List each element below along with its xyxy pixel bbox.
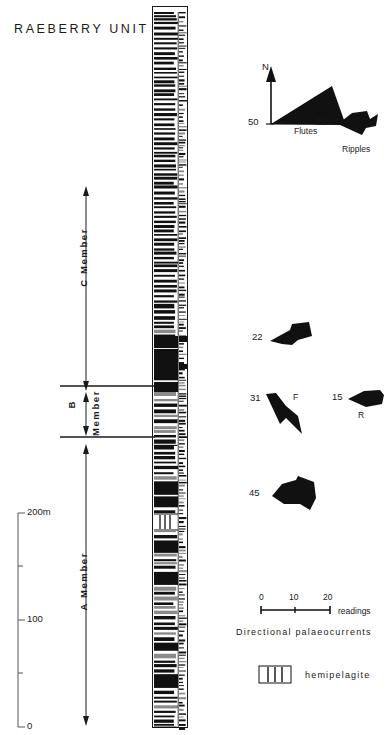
depth-tick-100: 100 <box>27 613 43 624</box>
rose-count-ripples-top: 22 <box>316 116 327 127</box>
rose-label-flutes-top: Flutes <box>294 126 317 136</box>
member-label-b: B <box>66 400 77 408</box>
rose-label-ripples-mid: R <box>358 410 364 420</box>
depth-tick-0: 0 <box>27 720 32 731</box>
readings-tick-10: 10 <box>289 592 298 602</box>
hemipelagite-label: hemipelagite <box>305 670 370 680</box>
rose-count-flutes-mid: 31 <box>250 392 261 403</box>
readings-unit-label: readings <box>338 606 371 616</box>
rose-count-mid-22: 22 <box>252 331 263 342</box>
member-label-c: C Member <box>78 228 89 287</box>
rose-count-flutes-top: 50 <box>248 116 259 127</box>
rose-diagram-low-45 <box>270 474 332 520</box>
depth-scale-bar <box>14 0 30 735</box>
rose-diagram-ripples-mid <box>346 388 388 418</box>
member-label-a: A Member <box>78 552 89 610</box>
depth-tick-200: 200m <box>27 506 51 517</box>
readings-tick-0: 0 <box>259 592 264 602</box>
rose-label-ripples-top: Ripples <box>342 144 370 154</box>
palaeocurrents-caption: Directional palaeocurrents <box>236 627 372 637</box>
readings-scale-bar <box>258 603 338 617</box>
hemipelagite-swatch <box>258 665 294 685</box>
rose-count-ripples-mid: 15 <box>332 391 343 402</box>
rose-label-flutes-mid: F <box>293 392 298 402</box>
rose-count-low-45: 45 <box>249 487 260 498</box>
rose-diagram-ripples-top <box>336 108 388 144</box>
member-label-b-word: Member <box>90 390 101 436</box>
member-brackets <box>60 0 160 735</box>
rose-diagram-flutes-mid <box>264 390 334 446</box>
readings-tick-20: 20 <box>323 592 332 602</box>
rose-diagram-mid-22 <box>268 318 328 358</box>
north-label: N <box>262 61 269 72</box>
